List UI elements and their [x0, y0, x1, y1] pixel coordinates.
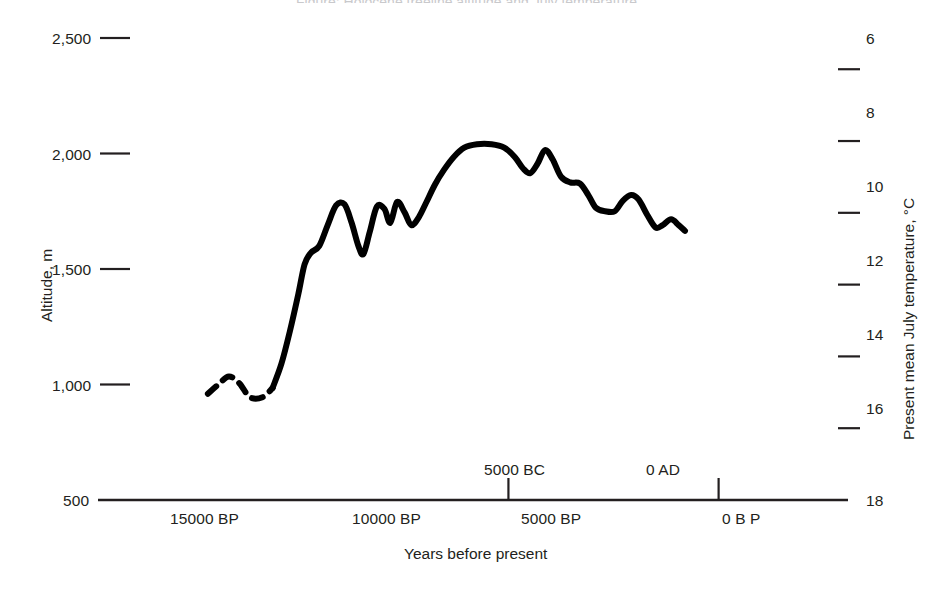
y2-tick-label-16: 16 [866, 400, 883, 418]
x-tick-label-0ad: 0 AD [646, 461, 680, 479]
y2-tick-label-8: 8 [866, 104, 875, 122]
y2-tick-label-10: 10 [866, 178, 883, 196]
y-axis-title: Altitude, m [38, 249, 56, 322]
data-series-layer [208, 144, 685, 399]
y-tick-label-1500: 1,500 [52, 261, 91, 279]
y2-tick-label-12: 12 [866, 252, 883, 270]
axis-lines [98, 38, 860, 500]
y-tick-label-500: 500 [63, 492, 89, 510]
y2-axis-title: Present mean July temperature, °C [900, 198, 918, 440]
x-tick-label-0bp: 0 B P [722, 510, 760, 528]
x-tick-label-10000bp: 10000 BP [352, 510, 421, 528]
figure-container: Figure: Holocene treeline altitude and J… [0, 0, 933, 599]
data-line-holocene-record [273, 144, 685, 388]
y2-tick-label-14: 14 [866, 326, 883, 344]
x-tick-label-5000bc: 5000 BC [484, 461, 545, 479]
y2-tick-label-18: 18 [866, 492, 883, 510]
x-axis-title: Years before present [404, 545, 547, 563]
data-line-late-glacial-uncertain [208, 376, 273, 398]
y2-tick-label-6: 6 [866, 30, 875, 48]
y-tick-label-1000: 1,000 [52, 377, 91, 395]
chart-plot-area [0, 0, 933, 599]
x-tick-label-15000bp: 15000 BP [170, 510, 239, 528]
y-tick-label-2500: 2,500 [52, 30, 91, 48]
x-tick-label-5000bp: 5000 BP [521, 510, 581, 528]
y-tick-label-2000: 2,000 [52, 146, 91, 164]
